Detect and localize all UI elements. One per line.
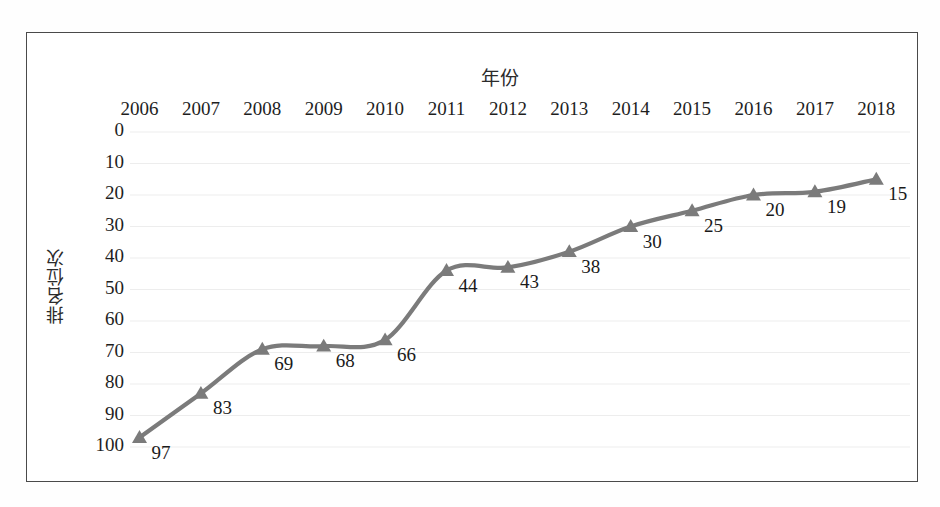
y-tick-60: 60 (78, 308, 124, 330)
marker-2009 (316, 339, 331, 352)
y-tick-90: 90 (78, 403, 124, 425)
x-tick-2014: 2014 (602, 98, 660, 120)
data-label-2016: 20 (766, 199, 785, 221)
data-label-2006: 97 (152, 442, 171, 464)
line-chart: 年份 排名位次 20062007200820092010201120122013… (0, 0, 940, 507)
data-label-2011: 44 (459, 275, 478, 297)
x-axis-title-text: 年份 (481, 68, 519, 89)
x-tick-2013: 2013 (540, 98, 598, 120)
marker-2016 (746, 188, 761, 201)
marker-2007 (193, 386, 208, 399)
data-label-2015: 25 (704, 215, 723, 237)
data-label-2018: 15 (888, 183, 907, 205)
marker-2011 (439, 263, 454, 276)
x-tick-2008: 2008 (233, 98, 291, 120)
y-tick-80: 80 (78, 371, 124, 393)
x-tick-2018: 2018 (847, 98, 905, 120)
data-label-2008: 69 (274, 353, 293, 375)
data-label-2014: 30 (643, 231, 662, 253)
data-label-2009: 68 (336, 350, 355, 372)
marker-2018 (869, 172, 884, 185)
x-tick-2015: 2015 (663, 98, 721, 120)
marker-2010 (378, 332, 393, 345)
scanned-page: 年份 排名位次 20062007200820092010201120122013… (0, 0, 940, 507)
marker-2006 (132, 430, 147, 443)
marker-2012 (500, 260, 515, 273)
data-label-2012: 43 (520, 271, 539, 293)
x-tick-2016: 2016 (725, 98, 783, 120)
x-axis-title: 年份 (0, 63, 940, 90)
x-tick-2007: 2007 (172, 98, 230, 120)
y-tick-40: 40 (78, 245, 124, 267)
y-tick-100: 100 (78, 434, 124, 456)
y-tick-30: 30 (78, 214, 124, 236)
data-label-2013: 38 (581, 256, 600, 278)
marker-2015 (685, 203, 700, 216)
x-tick-2010: 2010 (356, 98, 414, 120)
y-tick-20: 20 (78, 182, 124, 204)
data-label-2007: 83 (213, 397, 232, 419)
marker-2013 (562, 244, 577, 257)
x-tick-2011: 2011 (418, 98, 476, 120)
marker-2008 (255, 342, 270, 355)
y-tick-0: 0 (78, 119, 124, 141)
data-label-2017: 19 (827, 196, 846, 218)
marker-2017 (807, 184, 822, 197)
y-tick-70: 70 (78, 340, 124, 362)
data-label-2010: 66 (397, 344, 416, 366)
x-tick-2012: 2012 (479, 98, 537, 120)
x-tick-2006: 2006 (111, 98, 169, 120)
y-tick-10: 10 (78, 151, 124, 173)
x-tick-2017: 2017 (786, 98, 844, 120)
x-tick-2009: 2009 (295, 98, 353, 120)
y-tick-50: 50 (78, 277, 124, 299)
marker-2014 (623, 219, 638, 232)
